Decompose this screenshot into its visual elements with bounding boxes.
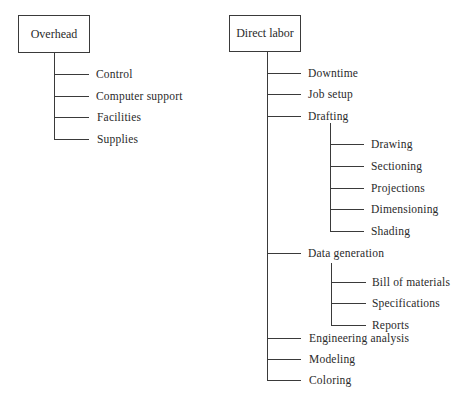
node-job-setup: Job setup xyxy=(308,87,353,101)
connector xyxy=(54,96,89,97)
connector xyxy=(331,303,366,304)
drafting-stem xyxy=(330,123,331,231)
connector xyxy=(330,166,364,167)
node-bill-of-materials: Bill of materials xyxy=(372,275,450,289)
node-data-generation: Data generation xyxy=(308,246,384,260)
connector xyxy=(331,282,366,283)
connector xyxy=(267,338,301,339)
node-supplies: Supplies xyxy=(97,132,138,146)
node-reports: Reports xyxy=(372,318,409,332)
data-generation-stem xyxy=(331,263,332,325)
node-coloring: Coloring xyxy=(309,373,352,387)
connector xyxy=(267,116,301,117)
connector xyxy=(267,380,301,381)
node-engineering-analysis: Engineering analysis xyxy=(309,331,409,345)
node-shading: Shading xyxy=(371,224,410,238)
connector xyxy=(330,231,364,232)
connector xyxy=(267,73,301,74)
connector xyxy=(331,325,366,326)
node-facilities: Facilities xyxy=(97,110,141,124)
connector xyxy=(267,253,301,254)
node-computer-support: Computer support xyxy=(96,89,183,103)
connector xyxy=(267,94,301,95)
direct-labor-node: Direct labor xyxy=(229,15,301,52)
connector xyxy=(267,359,301,360)
overhead-label: Overhead xyxy=(31,27,78,42)
connector xyxy=(330,188,364,189)
node-drafting: Drafting xyxy=(308,109,349,123)
direct-labor-label: Direct labor xyxy=(236,26,294,41)
connector xyxy=(330,144,364,145)
node-specifications: Specifications xyxy=(372,296,440,310)
connector xyxy=(330,209,364,210)
node-projections: Projections xyxy=(371,181,425,195)
node-control: Control xyxy=(96,67,133,81)
node-downtime: Downtime xyxy=(308,66,358,80)
overhead-node: Overhead xyxy=(18,15,90,53)
direct-labor-stem xyxy=(267,52,268,380)
connector xyxy=(54,117,89,118)
node-dimensioning: Dimensioning xyxy=(371,202,439,216)
node-drawing: Drawing xyxy=(371,137,413,151)
connector xyxy=(54,139,89,140)
node-sectioning: Sectioning xyxy=(371,159,422,173)
node-modeling: Modeling xyxy=(309,352,355,366)
connector xyxy=(54,74,89,75)
